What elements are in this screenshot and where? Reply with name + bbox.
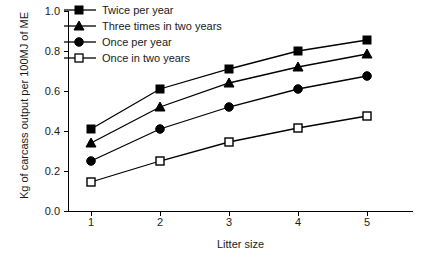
- data-point: [294, 47, 302, 55]
- legend: Twice per year Three times in two years …: [62, 3, 222, 65]
- legend-item-three-times-in-two-years: Three times in two years: [62, 19, 222, 33]
- data-point: [86, 138, 96, 147]
- data-point: [225, 138, 233, 146]
- legend-marker-filled-circle: [62, 35, 98, 49]
- data-point: [294, 124, 302, 132]
- data-point: [363, 36, 371, 44]
- legend-item-twice-per-year: Twice per year: [62, 3, 222, 17]
- series-line-2: [91, 76, 367, 161]
- legend-marker-filled-square: [62, 3, 98, 17]
- data-point: [87, 178, 95, 186]
- legend-marker-open-square: [62, 51, 98, 65]
- legend-label-once-in-two-years: Once in two years: [102, 51, 190, 65]
- data-point: [363, 72, 372, 81]
- data-point: [155, 102, 165, 111]
- data-point: [294, 85, 303, 94]
- legend-label-once-per-year: Once per year: [102, 35, 172, 49]
- data-point: [363, 112, 371, 120]
- legend-label-twice-per-year: Twice per year: [102, 3, 174, 17]
- data-point: [225, 65, 233, 73]
- series-line-3: [91, 116, 367, 182]
- data-point: [156, 157, 164, 165]
- legend-item-once-per-year: Once per year: [62, 35, 222, 49]
- data-point: [362, 49, 372, 58]
- legend-label-three-times-in-two-years: Three times in two years: [102, 19, 222, 33]
- data-point: [87, 157, 96, 166]
- legend-item-once-in-two-years: Once in two years: [62, 51, 222, 65]
- legend-marker-filled-triangle: [62, 19, 98, 33]
- data-point: [156, 125, 165, 134]
- data-point: [225, 103, 234, 112]
- line-chart-figure: Kg of carcass output per 100MJ of ME 1.0…: [0, 0, 421, 263]
- data-point: [87, 125, 95, 133]
- data-point: [156, 85, 164, 93]
